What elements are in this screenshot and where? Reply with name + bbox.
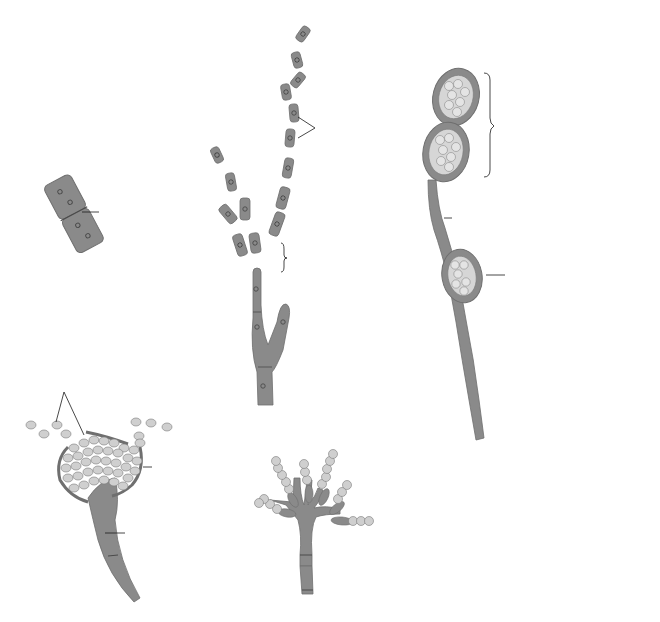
- panel-b-hypha: [210, 25, 312, 405]
- panel-e-conidiophore: [255, 450, 374, 595]
- panel-c-leaders: [484, 73, 505, 275]
- panel-c-hypha: [418, 63, 505, 440]
- panel-d-sporangium: [26, 392, 172, 602]
- panel-a-cells: [43, 173, 105, 254]
- fungal-spore-types-figure: [0, 0, 660, 622]
- diagram-canvas: [0, 0, 660, 622]
